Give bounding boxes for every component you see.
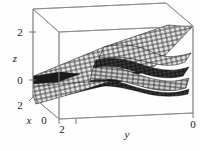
surfaces-group (28, 25, 192, 104)
y-tick-2: 2 (59, 123, 65, 135)
plot-canvas: 2 0 z 2 0 x 2 0 y (0, 0, 200, 151)
x-tick-0: 0 (41, 114, 47, 126)
x-tick-2: 2 (17, 99, 23, 111)
z-tick-2: 2 (17, 26, 23, 38)
y-tick-0: 0 (190, 118, 196, 130)
z-axis-label: z (12, 52, 18, 64)
z-tick-0: 0 (17, 74, 23, 86)
x-axis-label: x (26, 114, 32, 126)
y-axis-label: y (124, 128, 130, 140)
surface-plot-figure: 2 0 z 2 0 x 2 0 y (0, 0, 200, 151)
